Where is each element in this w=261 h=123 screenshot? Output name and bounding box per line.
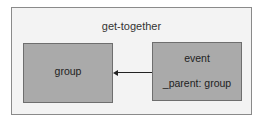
- arrowhead-icon: [113, 70, 118, 76]
- node-event-label: event: [153, 52, 241, 64]
- node-event-sublabel: _parent: group: [153, 77, 241, 89]
- edge-event-to-group: [116, 72, 152, 73]
- node-group: group: [23, 43, 113, 103]
- node-group-label: group: [24, 65, 112, 77]
- container-title: get-together: [12, 20, 251, 32]
- node-event: event _parent: group: [152, 42, 242, 101]
